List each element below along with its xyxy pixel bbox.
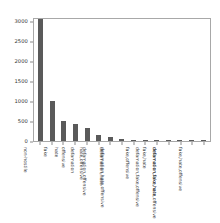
- x-tick-mark: [122, 142, 123, 145]
- bar: [189, 140, 194, 141]
- x-tick-mark: [192, 142, 193, 145]
- x-tick-slot: fake,hate,offensive: [198, 142, 210, 223]
- bar: [166, 140, 171, 141]
- bar: [131, 140, 136, 141]
- bar: [61, 121, 66, 141]
- bar-slot: [81, 19, 93, 141]
- x-tick-mark: [51, 142, 52, 145]
- x-tick-label: defamation: [69, 147, 74, 173]
- bar-slot: [47, 19, 59, 141]
- bar-slot: [186, 19, 198, 141]
- x-tick-mark: [133, 142, 134, 145]
- plot-area: [33, 18, 211, 142]
- bar-slot: [163, 19, 175, 141]
- x-tick-label: defamation,fake,offensive: [134, 147, 139, 207]
- x-tick-slot: defamation,offensive: [104, 142, 116, 223]
- x-tick-mark: [157, 142, 158, 145]
- x-tick-label: fake,offensive: [125, 147, 130, 179]
- y-tick-label: 1000: [14, 99, 28, 104]
- bar-slot: [174, 19, 186, 141]
- x-tick-mark: [110, 142, 111, 145]
- x-tick-mark: [180, 142, 181, 145]
- y-tick-label: 3000: [14, 19, 28, 24]
- bar: [85, 128, 90, 141]
- bar-chart-figure: 050010001500200025003000 non-hostilefake…: [0, 0, 220, 223]
- x-tick-mark: [86, 142, 87, 145]
- bar: [50, 101, 55, 141]
- bar: [201, 140, 206, 141]
- bar-slot: [58, 19, 70, 141]
- x-tick-mark: [75, 142, 76, 145]
- bar-slot: [35, 19, 47, 141]
- bar: [38, 19, 43, 141]
- y-tick-label: 500: [18, 119, 28, 124]
- x-tick-slot: defamation,fake,offensive: [163, 142, 175, 223]
- y-tick-label: 2000: [14, 59, 28, 64]
- bar-slot: [70, 19, 82, 141]
- x-tick-label: defamation,hate,offensive: [99, 147, 104, 207]
- x-tick-mark: [204, 142, 205, 145]
- x-tick-mark: [63, 142, 64, 145]
- bar: [108, 137, 113, 141]
- y-tick-label: 0: [25, 139, 28, 144]
- x-tick-mark: [39, 142, 40, 145]
- bar-series: [34, 19, 210, 141]
- x-tick-label: fake,hate: [142, 147, 147, 169]
- bar: [177, 140, 182, 141]
- bar: [119, 139, 124, 141]
- bar-slot: [93, 19, 105, 141]
- x-tick-label: offensive: [60, 147, 65, 168]
- bar-slot: [116, 19, 128, 141]
- y-axis: 050010001500200025003000: [0, 18, 33, 142]
- x-tick-label: non-hostile: [22, 147, 27, 173]
- bar-slot: [139, 19, 151, 141]
- x-tick-slot: defamation,fake,hate,offensive: [187, 142, 199, 223]
- bar: [154, 140, 159, 141]
- bar: [143, 140, 148, 141]
- bar: [96, 135, 101, 141]
- bar-slot: [151, 19, 163, 141]
- x-axis: non-hostilefakehateoffensivedefamationha…: [33, 142, 211, 223]
- y-tick-label: 2500: [14, 39, 28, 44]
- x-tick-label: defamation,fake,hate,offensive: [152, 147, 157, 219]
- x-tick-label: defamation,offensive: [81, 147, 86, 196]
- bar-slot: [197, 19, 209, 141]
- x-tick-label: fake: [42, 147, 47, 157]
- y-tick-label: 1500: [14, 79, 28, 84]
- x-tick-mark: [168, 142, 169, 145]
- bar-slot: [128, 19, 140, 141]
- x-tick-mark: [98, 142, 99, 145]
- bar-slot: [105, 19, 117, 141]
- x-tick-label: fake,hate,offensive: [178, 147, 183, 191]
- x-tick-mark: [145, 142, 146, 145]
- bar: [73, 124, 78, 141]
- x-tick-label: hate: [54, 147, 59, 157]
